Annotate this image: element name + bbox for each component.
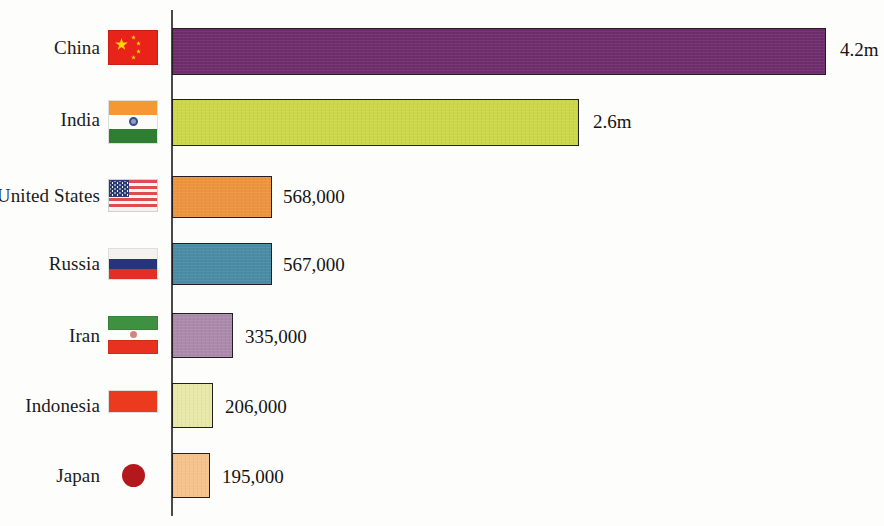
bar-chart: China 4.2m India 2.6m United States [0,0,884,526]
value-label-japan: 195,000 [222,467,284,486]
bar-russia [172,243,272,285]
value-label-iran: 335,000 [245,327,307,346]
flag-us-canton [109,180,129,197]
bar-united-states [172,176,272,218]
category-label-united-states: United States [0,186,100,205]
bar-indonesia [172,383,213,428]
flag-united-states-icon [108,179,158,212]
bar-china [172,28,826,75]
category-label-japan: Japan [56,466,100,485]
bar-iran [172,313,233,358]
category-label-china: China [54,38,100,57]
value-label-russia: 567,000 [283,255,345,274]
bar-india [172,99,579,146]
flag-iran-icon [108,316,158,354]
flag-india-icon [108,100,158,144]
category-label-indonesia: Indonesia [25,396,100,415]
value-label-united-states: 568,000 [283,187,345,206]
bar-japan [172,453,210,498]
value-label-india: 2.6m [593,112,632,131]
flag-russia-icon [108,248,158,280]
flag-indonesia-icon [108,390,158,413]
value-label-china: 4.2m [840,40,879,59]
category-label-russia: Russia [49,254,100,273]
flag-japan-icon [108,464,158,487]
value-label-indonesia: 206,000 [225,397,287,416]
category-label-india: India [60,110,100,129]
flag-china-icon [108,30,158,65]
category-label-iran: Iran [69,326,100,345]
